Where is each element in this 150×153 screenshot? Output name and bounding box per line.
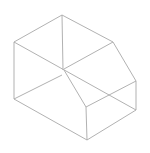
edge-line <box>64 42 113 69</box>
edge-line <box>14 75 62 99</box>
edge-line <box>87 110 136 140</box>
edge-line <box>14 15 62 42</box>
edge-line <box>14 42 136 110</box>
edge-line <box>86 81 136 107</box>
edge-line <box>62 15 113 42</box>
edges-group <box>14 15 136 140</box>
edge-line <box>86 107 87 140</box>
edge-line <box>14 99 87 140</box>
wireframe-diagram <box>0 0 150 153</box>
edge-line <box>113 42 136 81</box>
edge-line <box>62 15 63 70</box>
